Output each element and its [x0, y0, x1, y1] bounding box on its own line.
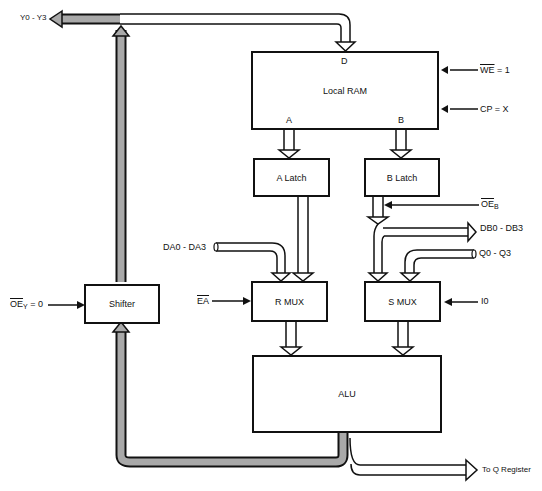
y-output-arrowhead — [50, 11, 62, 27]
da-signal-label: DA0 - DA3 — [163, 243, 206, 252]
shifter-block: Shifter — [84, 284, 160, 324]
q-bus — [405, 250, 474, 273]
ram-port-a-label: A — [286, 116, 292, 125]
b-latch-block: B Latch — [364, 158, 440, 197]
s-mux-block: S MUX — [364, 281, 441, 322]
y-to-ram-d-bus — [120, 14, 350, 42]
to-q-bus — [350, 438, 466, 475]
oey-value: = 0 — [28, 299, 43, 309]
oeb-signal-label: OEB — [481, 200, 499, 210]
shifter-output-arrowhead — [113, 26, 129, 36]
we-name: WE — [480, 65, 495, 75]
we-signal-label: WE = 1 — [480, 66, 510, 75]
oeb-subscript: B — [494, 203, 499, 210]
r-mux-label: R MUX — [275, 297, 304, 307]
s-mux-label: S MUX — [388, 297, 417, 307]
r-mux-block: R MUX — [251, 281, 328, 322]
local-ram-label: Local RAM — [323, 86, 367, 96]
we-value: = 1 — [495, 65, 510, 75]
da-bus — [216, 243, 285, 273]
b-latch-label: B Latch — [387, 173, 418, 183]
alu-block: ALU — [252, 355, 442, 433]
db-bus — [374, 224, 468, 273]
oey-name: OE — [10, 299, 23, 309]
cp-signal-label: CP = X — [480, 105, 509, 114]
shifter-label: Shifter — [109, 299, 135, 309]
alu-label: ALU — [338, 389, 356, 399]
oey-signal-label: OEY = 0 — [10, 300, 43, 310]
ram-port-d-label: D — [341, 57, 348, 66]
to-q-register-label: To Q Register — [482, 466, 531, 474]
ram-port-b-label: B — [398, 116, 404, 125]
q-signal-label: Q0 - Q3 — [479, 249, 511, 258]
a-latch-label: A Latch — [276, 173, 306, 183]
oeb-name: OE — [481, 199, 494, 209]
a-latch-block: A Latch — [253, 158, 330, 197]
y-output-label: Y0 - Y3 — [20, 14, 47, 22]
db-signal-label: DB0 - DB3 — [480, 224, 523, 233]
i0-signal-label: I0 — [481, 297, 489, 306]
ea-signal-label: EA — [197, 297, 209, 306]
